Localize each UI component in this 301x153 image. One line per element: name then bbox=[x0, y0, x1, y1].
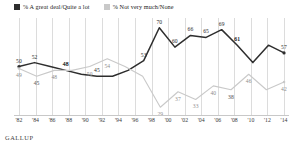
data-point-label: 45 bbox=[34, 80, 40, 86]
data-point-label: 37 bbox=[175, 96, 181, 102]
x-tick-label: '10 bbox=[247, 117, 254, 123]
data-point-label: 40 bbox=[210, 90, 216, 96]
legend-entry-great-deal: % A great deal/Quite a lot bbox=[14, 3, 90, 10]
data-point-label: 49 bbox=[16, 72, 22, 78]
x-tick-label: '08 bbox=[231, 117, 238, 123]
x-tick-label: '06 bbox=[214, 117, 221, 123]
data-point-label: 38 bbox=[228, 94, 234, 100]
legend-swatch-dark-icon bbox=[14, 4, 20, 10]
series-line-not-very-much bbox=[19, 59, 284, 107]
data-point-label: 48 bbox=[63, 61, 69, 67]
x-axis-line bbox=[14, 115, 289, 116]
x-tick-label: '98 bbox=[148, 117, 155, 123]
x-tick-label: '82 bbox=[16, 117, 23, 123]
x-tick-label: '12 bbox=[264, 117, 271, 123]
data-point-label: 61 bbox=[234, 36, 240, 42]
chart-container: % A great deal/Quite a lot % Not very mu… bbox=[0, 0, 301, 153]
data-point-label: 52 bbox=[32, 54, 38, 60]
plot-area: 5052484548537060666569616157494548545045… bbox=[14, 18, 289, 115]
legend-swatch-light-icon bbox=[104, 4, 110, 10]
x-tick-label: '04 bbox=[198, 117, 205, 123]
x-tick-label: '94 bbox=[115, 117, 122, 123]
x-tick-label: '84 bbox=[32, 117, 39, 123]
series-line-great-deal bbox=[19, 28, 284, 76]
data-point-label: 57 bbox=[281, 44, 287, 50]
data-point-label: 66 bbox=[188, 26, 194, 32]
series-lines bbox=[14, 18, 289, 115]
data-point-label: 70 bbox=[156, 19, 162, 25]
data-point-label: 50 bbox=[16, 58, 22, 64]
data-point-label: 50 bbox=[87, 71, 93, 77]
chart-legend: % A great deal/Quite a lot % Not very mu… bbox=[14, 3, 174, 10]
x-tick-label: '88 bbox=[65, 117, 72, 123]
x-tick-label: '86 bbox=[49, 117, 56, 123]
data-point-label: 65 bbox=[203, 28, 209, 34]
x-tick-label: '02 bbox=[181, 117, 188, 123]
legend-label-great-deal: % A great deal/Quite a lot bbox=[23, 3, 90, 10]
legend-entry-not-very-much: % Not very much/None bbox=[104, 3, 174, 10]
data-point-label: 48 bbox=[51, 74, 57, 80]
data-point-label: 53 bbox=[141, 52, 147, 58]
series-endpoint-marker bbox=[283, 81, 286, 84]
x-axis-ticks: '82'84'86'88'90'92'94'96'98'00'02'04'06'… bbox=[14, 117, 289, 129]
data-point-label: 42 bbox=[281, 86, 287, 92]
series-endpoint-marker bbox=[282, 51, 285, 54]
data-point-label: 60 bbox=[172, 38, 178, 44]
series-endpoint-marker bbox=[18, 67, 21, 70]
data-point-label: 69 bbox=[219, 21, 225, 27]
x-tick-label: '90 bbox=[82, 117, 89, 123]
legend-label-not-very-much: % Not very much/None bbox=[113, 3, 174, 10]
data-point-label: 45 bbox=[94, 67, 100, 73]
data-point-label: 54 bbox=[104, 63, 110, 69]
source-gallup-logo: GALLUP bbox=[5, 134, 34, 141]
data-point-label: 33 bbox=[193, 103, 199, 109]
data-point-label: 46 bbox=[246, 78, 252, 84]
x-tick-label: '92 bbox=[98, 117, 105, 123]
x-tick-label: '00 bbox=[165, 117, 172, 123]
x-tick-label: '96 bbox=[132, 117, 139, 123]
x-tick-label: '14 bbox=[281, 117, 288, 123]
